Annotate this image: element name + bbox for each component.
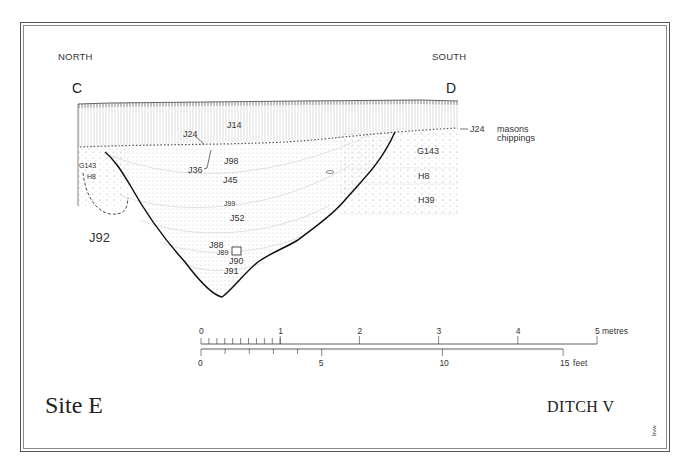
scale-metres-unit: metres (602, 326, 628, 336)
label-J52: J52 (230, 213, 245, 223)
scale-feet-unit: feet (573, 358, 587, 368)
scale-metres-label: 4 (516, 326, 521, 336)
scale-metres-label: 2 (357, 326, 362, 336)
site-title: Site E (45, 392, 103, 419)
scale-metres-label: 5 (595, 326, 600, 336)
section-point-end: D (446, 80, 456, 96)
section-point-start: C (72, 80, 82, 96)
label-J92: J92 (89, 230, 110, 245)
label-J36: J36 (188, 165, 203, 175)
label-J99: J99 (224, 200, 235, 207)
feature-title: DITCH V (547, 398, 615, 416)
scale-metres-label: 1 (278, 326, 283, 336)
annotation-chippings: chippings (497, 133, 535, 143)
direction-south: SOUTH (432, 51, 466, 62)
label-J45: J45 (223, 175, 238, 185)
scale-feet-label: 5 (319, 358, 324, 368)
scale-bar-metres (201, 336, 597, 344)
scale-metres-label: 3 (437, 326, 442, 336)
label-G143-left: G143 (79, 162, 96, 169)
scale-metres-label: 0 (199, 326, 204, 336)
scale-bar-feet (201, 349, 563, 356)
scale-feet-label: 10 (439, 358, 448, 368)
direction-north: NORTH (58, 51, 93, 62)
annotation-J24-ref: J24 (470, 124, 485, 134)
scale-feet-label: 0 (198, 358, 203, 368)
drafter-credit: bvw (651, 425, 657, 436)
label-H8-left: H8 (87, 173, 96, 180)
label-J24: J24 (183, 129, 198, 139)
label-J90: J90 (229, 256, 244, 266)
label-J91: J91 (224, 266, 239, 276)
stone-J89 (232, 247, 241, 255)
scale-feet-label: 15 (560, 358, 569, 368)
label-H39: H39 (418, 195, 435, 205)
label-J14: J14 (227, 120, 242, 130)
label-G143-right: G143 (417, 146, 439, 156)
label-J98: J98 (224, 156, 239, 166)
label-H8-right: H8 (418, 171, 430, 181)
label-J89: J89 (217, 249, 228, 256)
